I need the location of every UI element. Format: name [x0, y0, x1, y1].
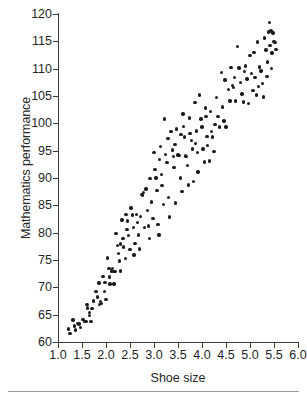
x-axis-tick-labels: 1.01.52.02.53.03.54.04.55.05.56.0 [0, 0, 307, 398]
footer-divider [8, 391, 299, 392]
x-tick-label: 6.0 [278, 349, 307, 361]
x-axis-title: Shoe size [58, 371, 298, 385]
scatter-chart-figure: 6065707580859095100105110115120 Mathemat… [0, 0, 307, 398]
